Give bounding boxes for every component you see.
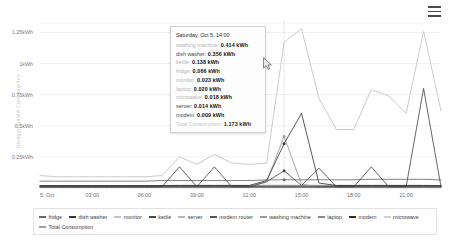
tooltip-total-value: 1.173 kWh — [222, 121, 251, 127]
tooltip-row-label: fridge: — [176, 68, 191, 74]
tooltip-row-value: 0.138 kWh — [190, 59, 219, 65]
tooltip-row-label: microwave: — [176, 94, 203, 100]
chart-tooltip: Saturday, Oct 5, 14:00 washing machine: … — [170, 26, 266, 133]
legend-item-label: dish washer — [79, 212, 108, 222]
tooltip-row-label: washing machine: — [176, 42, 219, 48]
tooltip-row: microwave: 0.018 kWh — [176, 93, 260, 102]
tooltip-row-value: 0.009 kWh — [195, 112, 224, 118]
series-hover-marker — [283, 169, 286, 172]
tooltip-row: monitor: 0.023 kWh — [176, 76, 260, 85]
legend-item[interactable]: fridge — [39, 212, 62, 222]
series-line[interactable] — [40, 179, 441, 181]
tooltip-row: laptop: 0.020 kWh — [176, 85, 260, 94]
legend-item-label: laptop — [327, 212, 342, 222]
legend-item[interactable]: washing machine — [260, 212, 311, 222]
x-axis-tick-label: 15:00 — [295, 192, 309, 198]
tooltip-row-label: laptop: — [176, 86, 192, 92]
y-axis-tick-label: 0.25kWh — [12, 154, 33, 160]
tooltip-row-value: 0.414 kWh — [219, 42, 248, 48]
legend-item[interactable]: server — [178, 212, 202, 222]
legend-swatch-icon — [39, 216, 46, 218]
legend-item[interactable]: laptop — [318, 212, 342, 222]
legend-swatch-icon — [260, 216, 267, 218]
tooltip-row-label: dish washer: — [176, 51, 206, 57]
legend-swatch-icon — [149, 216, 156, 218]
legend-swatch-icon — [384, 216, 391, 218]
legend-swatch-icon — [69, 216, 76, 218]
tooltip-row-value: 0.023 kWh — [195, 77, 224, 83]
legend-swatch-icon — [178, 216, 185, 218]
tooltip-row-value: 0.014 kWh — [192, 103, 221, 109]
legend-item-label: server — [188, 212, 203, 222]
legend-item[interactable]: modem — [349, 212, 376, 222]
legend-item-label: fridge — [49, 212, 63, 222]
x-axis-tick-label: 09:00 — [190, 192, 204, 198]
chart-legend[interactable]: fridgedish washermonitorkettleservermode… — [33, 208, 437, 235]
legend-item-label: kettle — [158, 212, 171, 222]
x-axis-tick-label: 12:00 — [242, 192, 256, 198]
tooltip-row: server: 0.014 kWh — [176, 102, 260, 111]
series-hover-marker — [283, 142, 286, 145]
legend-swatch-icon — [114, 216, 121, 218]
x-axis-tick-label: 21:00 — [399, 192, 413, 198]
x-axis-tick-label: 18:00 — [347, 192, 361, 198]
legend-item[interactable]: Total Consumption — [39, 222, 93, 232]
tooltip-total-row: Total Consumption: 1.173 kWh — [176, 120, 260, 129]
legend-swatch-icon — [39, 226, 46, 228]
x-axis-tick-label: 06:00 — [138, 192, 152, 198]
legend-item-label: washing machine — [269, 212, 311, 222]
tooltip-row: dish washer: 0.356 kWh — [176, 50, 260, 59]
legend-item-label: modem router — [219, 212, 253, 222]
legend-item-label: microwave — [393, 212, 419, 222]
legend-swatch-icon — [318, 216, 325, 218]
y-axis-tick-label: 1.25kWh — [12, 29, 33, 35]
legend-item-label: Total Consumption — [49, 222, 94, 232]
legend-swatch-icon — [349, 216, 356, 218]
tooltip-row-label: server: — [176, 103, 192, 109]
x-axis-tick-label: 03:00 — [86, 192, 100, 198]
energy-disaggregation-chart-page: 1.25kWh1kWh0.75kWh0.5kWh0.25kWh5. Oct03:… — [0, 0, 449, 240]
tooltip-title: Saturday, Oct 5, 14:00 — [176, 31, 260, 40]
y-axis-tick-label: 1kWh — [19, 61, 33, 67]
x-axis-tick-label: 5. Oct — [40, 192, 55, 198]
tooltip-row-value: 0.018 kWh — [203, 94, 232, 100]
tooltip-total-label: Total Consumption: — [176, 121, 222, 127]
tooltip-row-value: 0.356 kWh — [206, 51, 235, 57]
legend-item[interactable]: monitor — [114, 212, 141, 222]
tooltip-row: modem: 0.009 kWh — [176, 111, 260, 120]
legend-item[interactable]: dish washer — [69, 212, 107, 222]
tooltip-rows: washing machine: 0.414 kWhdish washer: 0… — [176, 41, 260, 129]
y-axis-tick-label: 0.75kWh — [12, 92, 33, 98]
tooltip-row: washing machine: 0.414 kWh — [176, 41, 260, 50]
tooltip-row-value: 0.020 kWh — [192, 86, 221, 92]
tooltip-row: fridge: 0.066 kWh — [176, 67, 260, 76]
tooltip-row-label: modem: — [176, 112, 195, 118]
y-axis-tick-label: 0.5kWh — [15, 123, 33, 129]
legend-item-label: modem — [359, 212, 377, 222]
series-hover-marker — [283, 135, 286, 138]
series-hover-marker — [283, 178, 286, 181]
legend-item[interactable]: microwave — [384, 212, 419, 222]
tooltip-row: kettle: 0.138 kWh — [176, 58, 260, 67]
legend-item[interactable]: modem router — [210, 212, 253, 222]
tooltip-row-label: kettle: — [176, 59, 190, 65]
legend-swatch-icon — [210, 216, 217, 218]
tooltip-row-label: monitor: — [176, 77, 195, 83]
tooltip-row-value: 0.066 kWh — [191, 68, 220, 74]
legend-item-label: monitor — [124, 212, 142, 222]
legend-item[interactable]: kettle — [149, 212, 171, 222]
